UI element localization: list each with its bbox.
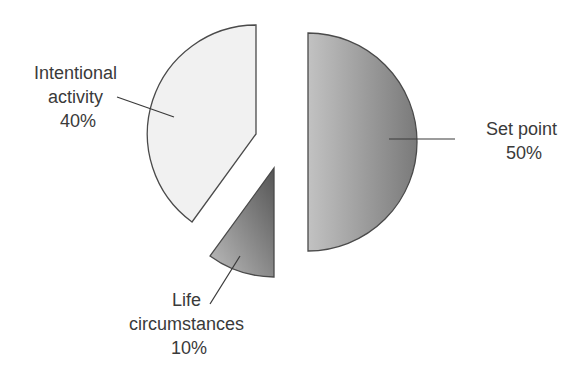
slice-set-point [308,33,417,251]
label-life-circumstances: Life circumstances 10% [129,290,249,358]
pie-chart: Intentional activity 40% Set point 50% L… [0,0,573,373]
label-intentional-activity: Intentional activity 40% [34,63,122,131]
label-set-point: Set point 50% [486,119,562,163]
slice-intentional-activity [147,25,256,222]
